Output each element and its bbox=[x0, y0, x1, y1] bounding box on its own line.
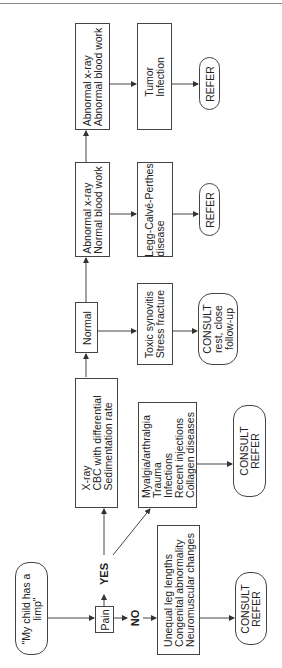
consult-refer-no-pain-text: CONSULT REFER bbox=[240, 584, 262, 633]
tumor-infection-node: Tumor Infection bbox=[137, 23, 172, 130]
pain-causes-node: Myalgia/arthralgia Trauma Infections Rec… bbox=[138, 402, 197, 508]
abnormal-xray-normal-blood-text: Abnormal x-ray Normal blood work bbox=[82, 166, 104, 254]
toxic-synovitis-node: Toxic synovitis Stress fracture bbox=[137, 283, 173, 365]
normal-node: Normal bbox=[75, 302, 98, 353]
normal-text: Normal bbox=[81, 311, 92, 345]
legg-calve-perthes-node: Legg-Calvé-Perthes disease bbox=[137, 162, 173, 257]
refer-legg-node: REFER bbox=[199, 183, 220, 236]
consult-rest-node: CONSULT rest, close follow-up bbox=[198, 293, 238, 365]
refer-tumor-text: REFER bbox=[204, 66, 215, 102]
xray-tests-node: X-ray CBC with differential Sedimentatio… bbox=[75, 378, 118, 508]
start-text: "My child has a limp" bbox=[21, 573, 43, 644]
abnormal-xray-abnormal-blood-node: Abnormal x-ray Abnormal blood work bbox=[75, 23, 110, 130]
pain-text: Pain bbox=[99, 609, 110, 630]
start-node: "My child has a limp" bbox=[15, 562, 48, 655]
no-pain-causes-text: Unequal leg lengths Congenital abnormali… bbox=[162, 533, 195, 647]
no-pain-causes-node: Unequal leg lengths Congenital abnormali… bbox=[157, 525, 200, 655]
refer-legg-text: REFER bbox=[204, 192, 215, 228]
abnormal-xray-abnormal-blood-text: Abnormal x-ray Abnormal blood work bbox=[82, 27, 104, 126]
legg-calve-perthes-text: Legg-Calvé-Perthes disease bbox=[144, 163, 166, 256]
consult-refer-pain-node: CONSULT REFER bbox=[233, 405, 266, 497]
abnormal-xray-normal-blood-node: Abnormal x-ray Normal blood work bbox=[75, 162, 110, 257]
consult-rest-text: CONSULT rest, close follow-up bbox=[202, 304, 235, 353]
consult-refer-no-pain-node: CONSULT REFER bbox=[235, 572, 267, 645]
no-label: NO bbox=[129, 610, 141, 627]
yes-label: YES bbox=[98, 563, 110, 585]
tumor-infection-text: Tumor Infection bbox=[144, 57, 166, 97]
consult-refer-pain-text: CONSULT REFER bbox=[239, 426, 261, 475]
xray-tests-text: X-ray CBC with differential Sedimentatio… bbox=[80, 396, 113, 491]
toxic-synovitis-text: Toxic synovitis Stress fracture bbox=[144, 290, 166, 358]
pain-causes-text: Myalgia/arthralgia Trauma Infections Rec… bbox=[140, 412, 195, 498]
pain-node: Pain bbox=[95, 606, 114, 633]
refer-tumor-node: REFER bbox=[199, 57, 220, 110]
